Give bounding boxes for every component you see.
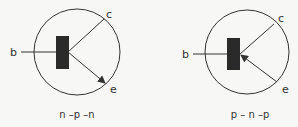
pnp-base-bar [227,38,240,70]
npn-symbol: b c e n –p –n [10,8,120,120]
pnp-caption: p – n –p [231,109,270,120]
pnp-emitter-arrow-icon [241,55,277,82]
npn-collector-label: c [106,8,112,21]
pnp-symbol: b c e p – n –p [182,10,289,120]
pnp-emitter-label: e [282,83,289,96]
pnp-collector-lead [240,24,274,54]
pnp-collector-label: c [278,12,284,25]
npn-collector-lead [68,19,104,52]
npn-caption: n –p –n [59,109,94,120]
npn-base-label: b [10,46,17,59]
transistor-diagram: b c e n –p –n b c e p – n –p [0,0,298,127]
pnp-base-label: b [182,48,189,61]
npn-emitter-label: e [110,83,117,96]
npn-emitter-arrow-icon [68,52,105,83]
npn-base-bar [56,36,69,69]
